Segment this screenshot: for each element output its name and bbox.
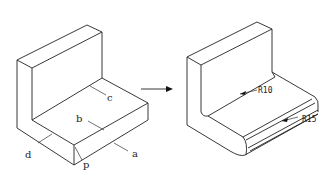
- svg-text:d: d: [25, 149, 32, 160]
- edge-label-c: c: [90, 86, 113, 103]
- edge-label-b: b: [76, 113, 104, 130]
- left-l-block: [17, 25, 148, 165]
- svg-text:R10: R10: [258, 86, 273, 95]
- edge-label-a: a: [114, 143, 138, 159]
- svg-text:R15: R15: [302, 115, 317, 124]
- dimension-r10: R10: [240, 86, 273, 95]
- svg-text:p: p: [83, 159, 89, 170]
- edge-label-p: p: [75, 147, 89, 170]
- edge-label-d: d: [25, 134, 52, 160]
- svg-text:a: a: [132, 148, 138, 159]
- dimension-r15: R15: [282, 115, 317, 124]
- transform-arrow: [141, 86, 173, 92]
- svg-text:c: c: [107, 92, 113, 103]
- diagram-canvas: c b a d p: [0, 0, 333, 178]
- right-l-block-filleted: [187, 22, 318, 156]
- svg-text:b: b: [76, 113, 82, 124]
